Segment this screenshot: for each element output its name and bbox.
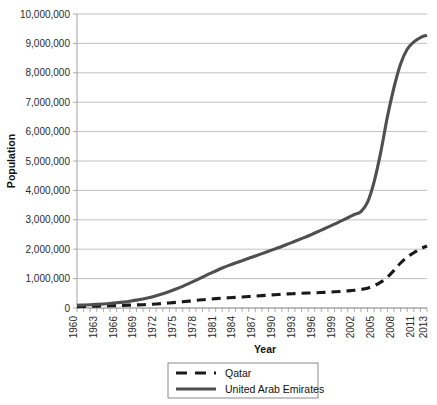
legend-label: United Arab Emirates xyxy=(225,383,324,395)
x-tick-label: 1978 xyxy=(187,316,198,339)
x-tick-label: 1981 xyxy=(207,316,218,339)
y-tick-label: 4,000,000 xyxy=(26,185,71,196)
x-tick-label: 1984 xyxy=(226,316,237,339)
y-tick-label: 3,000,000 xyxy=(26,214,71,225)
x-tick-label: 2011 xyxy=(405,316,416,338)
x-tick-label: 1966 xyxy=(108,316,119,339)
series-line-united-arab-emirates xyxy=(77,35,427,305)
y-tick-label: 9,000,000 xyxy=(26,38,71,49)
x-axis-tick-labels: 1960196319661969197219751978198119841987… xyxy=(68,316,429,339)
y-tick-label: 5,000,000 xyxy=(26,156,71,167)
x-tick-label: 2005 xyxy=(365,316,376,339)
y-tick-label: 6,000,000 xyxy=(26,126,71,137)
x-tick-label: 1969 xyxy=(127,316,138,339)
gridlines xyxy=(77,14,427,308)
x-tick-label: 1972 xyxy=(147,316,158,339)
x-tick-label: 2008 xyxy=(385,316,396,339)
y-tick-label: 2,000,000 xyxy=(26,244,71,255)
tick-marks xyxy=(73,14,427,312)
x-tick-label: 2002 xyxy=(345,316,356,339)
x-axis-title: Year xyxy=(254,343,276,355)
x-tick-label: 1987 xyxy=(246,316,257,339)
x-tick-label: 1963 xyxy=(88,316,99,339)
x-tick-label: 1990 xyxy=(266,316,277,339)
y-tick-label: 1,000,000 xyxy=(26,273,71,284)
y-tick-label: 0 xyxy=(64,303,70,314)
y-tick-label: 7,000,000 xyxy=(26,97,71,108)
x-tick-label: 1993 xyxy=(286,316,297,339)
y-axis-tick-labels: 01,000,0002,000,0003,000,0004,000,0005,0… xyxy=(20,9,71,314)
chart-canvas: 01,000,0002,000,0003,000,0004,000,0005,0… xyxy=(0,0,437,405)
y-tick-label: 8,000,000 xyxy=(26,67,71,78)
x-tick-label: 1975 xyxy=(167,316,178,339)
chart-legend: QatarUnited Arab Emirates xyxy=(168,363,324,398)
data-series xyxy=(77,35,427,306)
x-tick-label: 2013 xyxy=(418,316,429,339)
x-tick-label: 1960 xyxy=(68,316,79,339)
legend-label: Qatar xyxy=(225,367,252,379)
y-tick-label: 10,000,000 xyxy=(20,9,70,20)
x-tick-label: 1996 xyxy=(306,316,317,339)
y-axis-title: Population xyxy=(5,134,17,188)
series-line-qatar xyxy=(77,246,427,307)
population-line-chart: 01,000,0002,000,0003,000,0004,000,0005,0… xyxy=(0,0,437,405)
x-tick-label: 1999 xyxy=(326,316,337,339)
